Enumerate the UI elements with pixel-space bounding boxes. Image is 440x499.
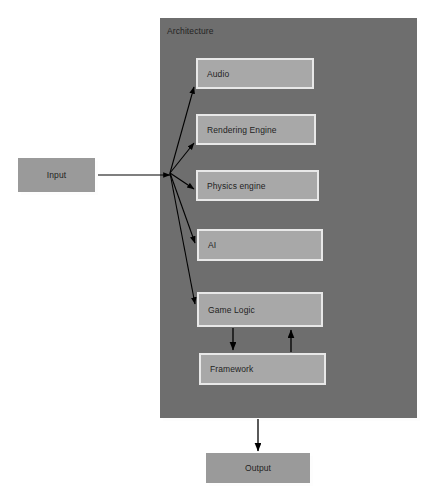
module-box-ai[interactable]: AI <box>197 229 323 261</box>
architecture-diagram: Architecture Audio Rendering Engine Phys… <box>0 0 440 499</box>
io-box-output[interactable]: Output <box>206 453 310 483</box>
module-label-game-logic: Game Logic <box>208 305 255 315</box>
module-label-physics-engine: Physics engine <box>207 181 266 191</box>
module-label-ai: AI <box>208 240 216 250</box>
io-label-output: Output <box>206 463 310 473</box>
module-box-physics-engine[interactable]: Physics engine <box>196 170 319 201</box>
io-box-input[interactable]: Input <box>18 158 95 192</box>
module-box-rendering-engine[interactable]: Rendering Engine <box>196 114 316 145</box>
module-label-framework: Framework <box>210 364 253 374</box>
module-box-framework[interactable]: Framework <box>199 353 326 385</box>
module-box-game-logic[interactable]: Game Logic <box>197 292 323 327</box>
architecture-container-label: Architecture <box>167 26 214 36</box>
module-label-audio: Audio <box>207 69 229 79</box>
io-label-input: Input <box>18 170 95 180</box>
module-label-rendering-engine: Rendering Engine <box>207 125 277 135</box>
module-box-audio[interactable]: Audio <box>196 58 314 89</box>
